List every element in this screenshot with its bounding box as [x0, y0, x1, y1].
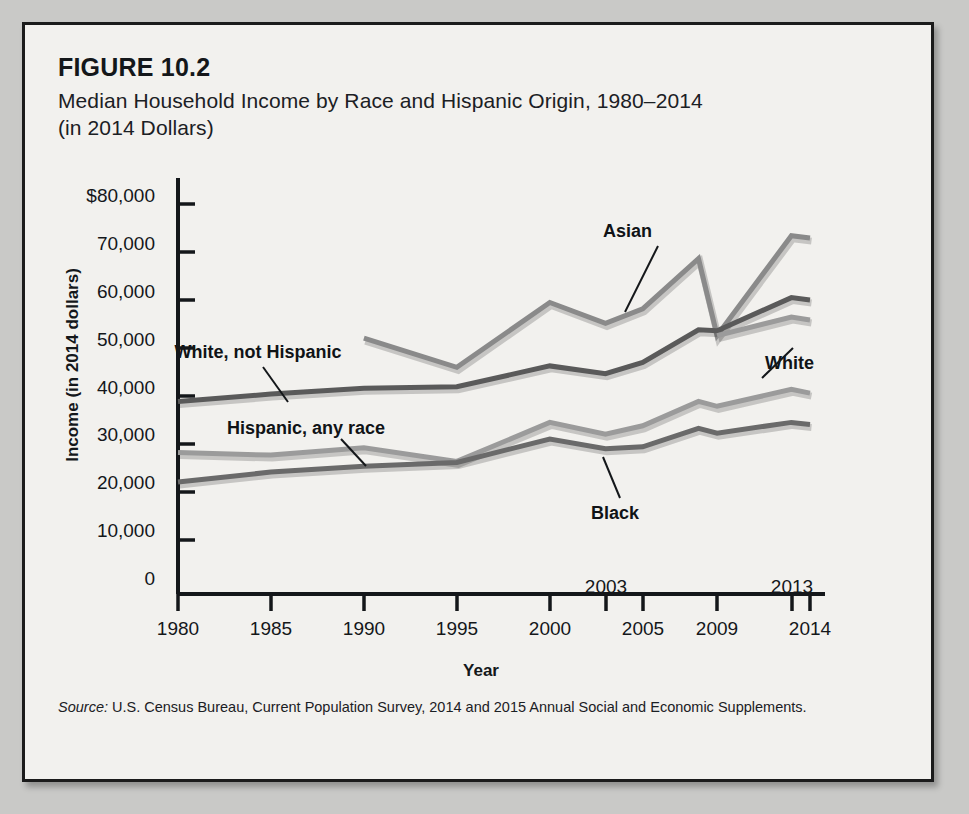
series-lines [178, 236, 812, 485]
figure-box: FIGURE 10.2 Median Household Income by R… [22, 22, 934, 782]
source-label: Source: [58, 699, 108, 715]
series-shadow-asian [365, 239, 811, 371]
figure-page: FIGURE 10.2 Median Household Income by R… [0, 0, 969, 814]
x-tick-marks [178, 594, 810, 611]
series-line-asian [364, 236, 810, 368]
source-note: Source: U.S. Census Bureau, Current Popu… [58, 697, 898, 717]
leader-line-white [762, 348, 793, 378]
axes-group [178, 178, 825, 594]
chart-svg [25, 25, 937, 785]
source-body: U.S. Census Bureau, Current Population S… [108, 699, 807, 715]
series-line-black [178, 422, 810, 482]
y-tick-marks [178, 204, 195, 540]
leader-line-black [603, 457, 620, 498]
chart-plot-area: Income (in 2014 dollars) Year $80,000 70… [25, 25, 937, 785]
